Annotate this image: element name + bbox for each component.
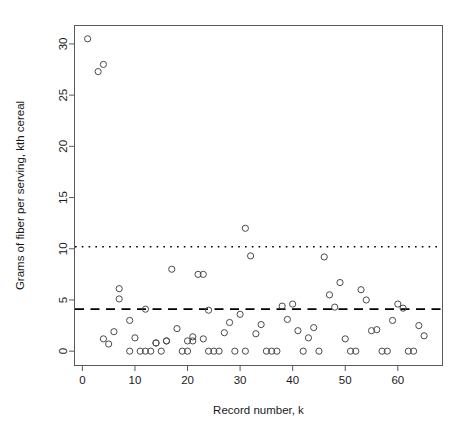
data-point [300,348,306,354]
data-point [226,319,232,325]
data-point [116,286,122,292]
data-point [221,330,227,336]
data-point [116,296,122,302]
data-point [158,348,164,354]
data-point [342,336,348,342]
data-point [284,316,290,322]
data-point [389,317,395,323]
data-point [200,336,206,342]
y-tick-label: 0 [58,348,70,354]
data-point [85,36,91,42]
data-point [153,340,159,346]
data-point [332,304,338,310]
y-tick-label: 5 [58,297,70,303]
data-point [395,301,401,307]
y-tick-label: 10 [58,242,70,255]
y-tick-label: 30 [58,38,70,51]
data-point [174,326,180,332]
data-point [127,317,133,323]
x-tick-label: 30 [234,374,247,386]
x-tick-label: 20 [181,374,194,386]
x-tick-label: 50 [339,374,352,386]
x-tick-label: 40 [286,374,299,386]
data-point [363,297,369,303]
data-point [279,303,285,309]
data-point [253,331,259,337]
data-point [416,322,422,328]
data-point [316,348,322,354]
data-point [290,301,296,307]
data-point [242,348,248,354]
data-point [190,334,196,340]
data-point [358,287,364,293]
data-point [421,333,427,339]
data-point [237,311,243,317]
data-point [205,307,211,313]
data-point [242,225,248,231]
data-point [132,335,138,341]
data-point [311,325,317,331]
data-point [127,348,133,354]
data-point [321,254,327,260]
data-point [100,336,106,342]
data-point [111,329,117,335]
y-tick-label: 15 [58,191,70,204]
y-tick-label: 20 [58,140,70,153]
x-tick-label: 10 [129,374,142,386]
plot-canvas: 0102030405060051015202530Record number, … [0,0,465,435]
y-tick-label: 25 [58,89,70,102]
data-point [400,305,406,311]
scatter-plot-figure: 0102030405060051015202530Record number, … [0,0,465,435]
data-point [169,266,175,272]
data-point [326,292,332,298]
data-point [100,61,106,67]
data-point [337,279,343,285]
data-point [163,338,169,344]
plot-frame [75,26,443,366]
data-point [305,335,311,341]
data-point [106,341,112,347]
x-tick-label: 60 [391,374,404,386]
x-tick-label: 0 [79,374,85,386]
x-axis-title: Record number, k [213,404,304,416]
data-point [95,68,101,74]
y-axis-title: Grams of fiber per serving, kth cereal [14,101,26,290]
data-point [295,328,301,334]
data-point [258,321,264,327]
data-point [232,348,238,354]
data-point [248,253,254,259]
